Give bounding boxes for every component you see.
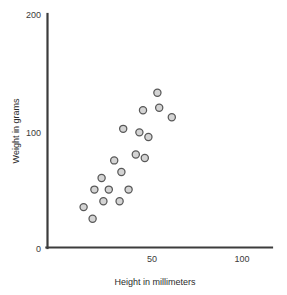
scatter-plot-figure: 200 100 0 50 100 Height in millimeters W…	[0, 0, 287, 295]
y-tick-label-0: 0	[36, 244, 41, 254]
y-tick-label-200: 200	[26, 10, 41, 20]
data-point	[139, 107, 146, 114]
data-point-group	[80, 89, 175, 222]
data-point	[136, 129, 143, 136]
data-point	[111, 157, 118, 164]
data-point	[154, 89, 161, 96]
data-point	[80, 204, 87, 211]
y-axis-title: Weight in grams	[11, 98, 21, 163]
x-tick-label-50: 50	[147, 254, 157, 264]
chart-canvas: 200 100 0 50 100 Height in millimeters W…	[0, 0, 287, 295]
data-point	[125, 186, 132, 193]
data-point	[105, 186, 112, 193]
data-point	[168, 114, 175, 121]
x-tick-label-100: 100	[234, 254, 249, 264]
y-tick-label-100: 100	[26, 128, 41, 138]
data-point	[145, 133, 152, 140]
data-point	[156, 104, 163, 111]
data-point	[98, 174, 105, 181]
data-point	[141, 154, 148, 161]
data-point	[120, 125, 127, 132]
x-axis-title: Height in millimeters	[114, 277, 196, 287]
data-point	[118, 168, 125, 175]
data-point	[91, 186, 98, 193]
data-point	[116, 198, 123, 205]
data-point	[100, 198, 107, 205]
data-point	[132, 151, 139, 158]
data-point	[89, 215, 96, 222]
